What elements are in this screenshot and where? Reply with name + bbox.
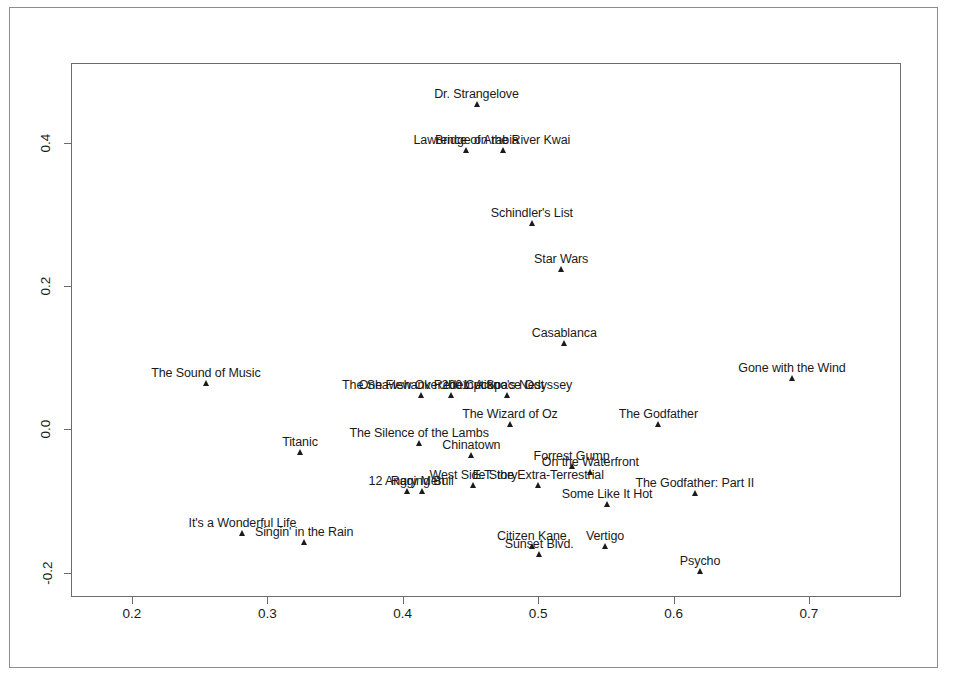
y-axis-tick-label: 0.4 — [38, 133, 53, 152]
scatter-point — [500, 147, 506, 153]
scatter-point — [789, 375, 795, 381]
y-axis-tick — [64, 286, 71, 287]
x-axis-tick — [538, 597, 539, 604]
scatter-point — [602, 543, 608, 549]
scatter-data-layer: 0.20.30.40.50.60.70.40.20.0-0.2Dr. Stran… — [0, 0, 953, 681]
scatter-point — [558, 266, 564, 272]
scatter-point-label: Psycho — [680, 555, 720, 568]
scatter-point-label: Sunset Blvd. — [505, 537, 574, 550]
scatter-point-label: The Godfather — [619, 408, 698, 421]
y-axis-tick — [64, 429, 71, 430]
scatter-point — [655, 421, 661, 427]
scatter-point — [416, 440, 422, 446]
scatter-point — [404, 488, 410, 494]
scatter-point-label: The Godfather: Part II — [635, 477, 754, 490]
y-axis-tick-label: 0.2 — [38, 277, 53, 296]
scatter-point — [301, 539, 307, 545]
scatter-point-label: E.T. the Extra-Terrestrial — [472, 469, 603, 482]
scatter-point — [297, 449, 303, 455]
scatter-point — [692, 490, 698, 496]
scatter-point-label: Vertigo — [586, 529, 624, 542]
y-axis-tick-label: 0.0 — [38, 420, 53, 439]
scatter-point — [463, 147, 469, 153]
y-axis-tick — [64, 573, 71, 574]
scatter-point-label: Gone with the Wind — [738, 361, 845, 374]
scatter-point-label: The Sound of Music — [151, 366, 260, 379]
scatter-point — [448, 392, 454, 398]
scatter-point — [604, 501, 610, 507]
scatter-point — [468, 452, 474, 458]
scatter-point-label: Bridge on the River Kwai — [435, 134, 570, 147]
x-axis-tick — [674, 597, 675, 604]
scatter-point-label: Titanic — [282, 436, 318, 449]
y-axis-tick — [64, 143, 71, 144]
x-axis-tick-label: 0.6 — [664, 606, 683, 621]
x-axis-tick-label: 0.2 — [123, 606, 142, 621]
scatter-point — [697, 568, 703, 574]
x-axis-tick — [403, 597, 404, 604]
y-axis-tick-label: -0.2 — [40, 561, 55, 584]
x-axis-tick-label: 0.5 — [529, 606, 548, 621]
scatter-point-label: Raging Bull — [391, 475, 454, 488]
scatter-point — [239, 530, 245, 536]
scatter-point-label: Casablanca — [532, 327, 597, 340]
scatter-point-label: Schindler's List — [491, 207, 573, 220]
scatter-point-label: Singin' in the Rain — [255, 525, 353, 538]
scatter-point — [536, 551, 542, 557]
scatter-point — [474, 101, 480, 107]
scatter-point — [561, 340, 567, 346]
scatter-point-label: Chinatown — [442, 438, 500, 451]
scatter-point-label: Dr. Strangelove — [434, 88, 519, 101]
scatter-point — [203, 380, 209, 386]
scatter-point-label: On the Waterfront — [542, 455, 639, 468]
scatter-point — [507, 421, 513, 427]
scatter-point-label: Star Wars — [534, 252, 588, 265]
scatter-point — [470, 482, 476, 488]
x-axis-tick — [132, 597, 133, 604]
scatter-point — [529, 220, 535, 226]
x-axis-tick — [267, 597, 268, 604]
x-axis-tick-label: 0.4 — [393, 606, 412, 621]
scatter-point — [504, 392, 510, 398]
scatter-point — [535, 482, 541, 488]
scatter-point-label: The Wizard of Oz — [462, 408, 558, 421]
x-axis-tick — [809, 597, 810, 604]
scatter-point — [418, 392, 424, 398]
x-axis-tick-label: 0.3 — [258, 606, 277, 621]
scatter-point-label: 2001: A Space Odyssey — [442, 379, 573, 392]
scatter-point — [419, 488, 425, 494]
x-axis-tick-label: 0.7 — [800, 606, 819, 621]
